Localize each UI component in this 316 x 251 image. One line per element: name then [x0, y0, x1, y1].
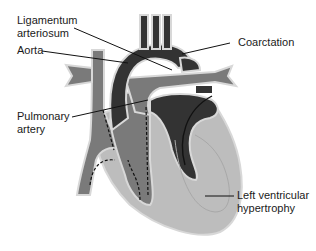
label-pulmonary-line1: Pulmonary: [17, 110, 70, 123]
label-left-ventricular-hypertrophy: Left ventricular hypertrophy: [237, 189, 309, 215]
descending-aorta: [180, 58, 200, 72]
label-ligamentum-line2: arteriosum: [17, 27, 78, 40]
aortic-branch-2: [152, 15, 160, 49]
label-lvh-line2: hypertrophy: [237, 202, 309, 215]
label-coarctation-line1: Coarctation: [238, 36, 294, 49]
aortic-branch-1: [140, 15, 148, 49]
label-lvh-line1: Left ventricular: [237, 189, 309, 202]
label-coarctation: Coarctation: [238, 36, 294, 49]
leader-aorta: [42, 51, 128, 63]
label-aorta: Aorta: [17, 44, 43, 57]
pulmonary-vein: [196, 86, 212, 93]
label-pulmonary-line2: artery: [17, 123, 70, 136]
aortic-branch-3: [163, 15, 171, 49]
label-ligamentum-line1: Ligamentum: [17, 14, 78, 27]
label-ligamentum-arteriosum: Ligamentum arteriosum: [17, 14, 78, 40]
left-vessel: [66, 65, 92, 86]
label-pulmonary-artery: Pulmonary artery: [17, 110, 70, 136]
leader-coarctation: [182, 43, 230, 54]
label-aorta-line1: Aorta: [17, 44, 43, 57]
